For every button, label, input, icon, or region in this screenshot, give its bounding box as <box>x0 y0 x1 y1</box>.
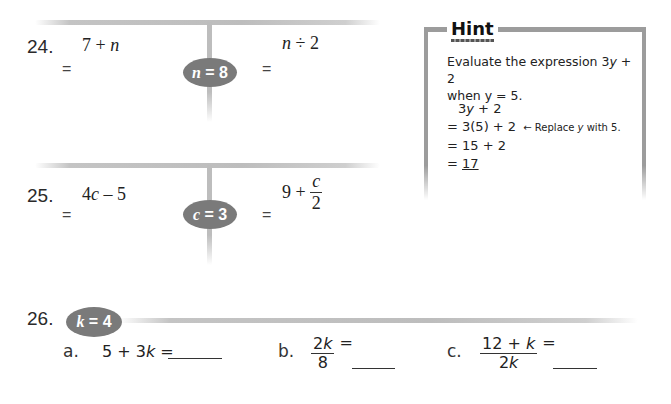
part-c-expression: 12 + k 2k = <box>480 333 556 372</box>
equals-24-left: = <box>62 60 71 78</box>
variable-badge-n: n = 8 <box>183 58 237 87</box>
part-label-a: a. <box>63 341 79 361</box>
expression-25-left: 4c – 5 <box>82 184 126 205</box>
problem-number-25: 25. <box>27 185 53 207</box>
arrow-left-icon: ← <box>523 122 531 133</box>
hint-title: Hint <box>447 18 498 39</box>
hint-step-2: = 3(5) + 2 ← Replace y with 5. <box>447 118 637 137</box>
equals-25-right: = <box>262 206 271 224</box>
expression-25-right: 9 + c 2 <box>282 172 322 213</box>
hint-step-1: 3y + 2 <box>447 100 637 118</box>
hint-answer: 17 <box>462 156 479 171</box>
hint-steps: 3y + 2 = 3(5) + 2 ← Replace y with 5. = … <box>447 100 637 173</box>
expression-24-right: n ÷ 2 <box>282 33 319 54</box>
problem-number-26: 26. <box>27 308 53 330</box>
expression-24-left: 7 + n <box>82 35 119 56</box>
answer-blank-a[interactable] <box>168 346 222 359</box>
answer-blank-c[interactable] <box>553 356 597 369</box>
hint-step-3: = 15 + 2 <box>447 137 637 155</box>
answer-blank-b[interactable] <box>352 356 395 369</box>
divider-26 <box>118 318 638 323</box>
hint-intro: Evaluate the expression 3y + 2 when y = … <box>447 53 633 104</box>
variable-badge-c: c = 3 <box>183 200 237 229</box>
fraction-c-over-2: c 2 <box>310 172 322 213</box>
part-a-expression: 5 + 3k = <box>102 342 174 361</box>
part-label-c: c. <box>447 341 462 361</box>
problem-number-24: 24. <box>27 36 53 58</box>
hint-title-underline <box>451 39 494 42</box>
variable-badge-k: k = 4 <box>66 307 122 337</box>
hint-note: ← Replace y with 5. <box>523 122 620 133</box>
fraction-2k-over-8: 2k 8 <box>311 335 334 372</box>
hint-step-4: = 17 <box>447 155 637 173</box>
part-label-b: b. <box>278 341 294 361</box>
equals-24-right: = <box>262 60 271 78</box>
fraction-12plusk-over-2k: 12 + k 2k <box>480 335 537 372</box>
part-b-expression: 2k 8 = <box>311 333 353 372</box>
hint-title-wrap: Hint <box>447 18 498 42</box>
equals-25-left: = <box>62 206 71 224</box>
